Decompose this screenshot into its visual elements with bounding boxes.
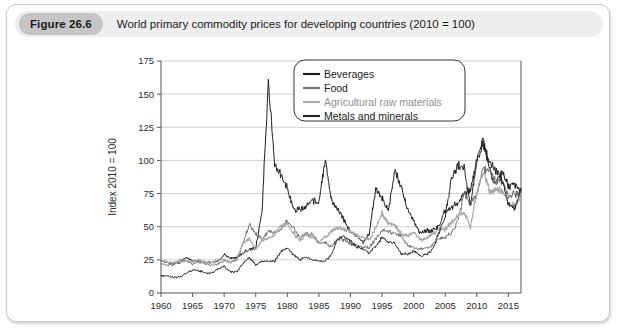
x-tick-label-1985: 1985 — [308, 300, 329, 311]
y-tick-label-50: 50 — [143, 221, 154, 232]
y-tick-label-100: 100 — [138, 155, 154, 166]
x-tick-label-2005: 2005 — [435, 300, 456, 311]
commodity-price-line-chart: 0255075100125150175 19601965197019751980… — [15, 41, 603, 317]
y-tick-label-150: 150 — [138, 89, 154, 100]
legend-label-metals-and-minerals: Metals and minerals — [324, 110, 418, 122]
series-line-metals-and-minerals — [161, 141, 521, 279]
y-axis-ticks-group: 0255075100125150175 — [138, 55, 161, 298]
legend-label-beverages: Beverages — [324, 68, 374, 80]
figure-header: Figure 26.6 World primary commodity pric… — [15, 11, 603, 37]
x-tick-label-1960: 1960 — [150, 300, 171, 311]
x-axis-ticks-group: 1960196519701975198019851990199520002005… — [150, 293, 519, 311]
x-tick-label-1990: 1990 — [340, 300, 361, 311]
y-tick-label-75: 75 — [143, 188, 154, 199]
figure-caption: World primary commodity prices for devel… — [117, 18, 475, 30]
x-tick-label-2010: 2010 — [466, 300, 487, 311]
y-tick-label-175: 175 — [138, 55, 154, 66]
x-tick-label-2000: 2000 — [403, 300, 424, 311]
chart-plot-area: 0255075100125150175 19601965197019751980… — [15, 41, 603, 317]
y-tick-label-0: 0 — [149, 287, 154, 298]
legend-label-food: Food — [324, 82, 348, 94]
y-tick-label-125: 125 — [138, 122, 154, 133]
x-tick-label-1995: 1995 — [371, 300, 392, 311]
x-tick-label-1970: 1970 — [214, 300, 235, 311]
x-tick-label-2015: 2015 — [498, 300, 519, 311]
y-tick-label-25: 25 — [143, 254, 154, 265]
figure-frame: Figure 26.6 World primary commodity pric… — [6, 4, 610, 322]
figure-number-badge: Figure 26.6 — [19, 13, 103, 35]
y-axis-title: Index 2010 = 100 — [107, 138, 118, 216]
x-tick-label-1980: 1980 — [277, 300, 298, 311]
legend-label-agricultural-raw-materials: Agricultural raw materials — [324, 96, 442, 108]
x-tick-label-1975: 1975 — [245, 300, 266, 311]
chart-legend: BeveragesFoodAgricultural raw materialsM… — [294, 60, 465, 122]
x-tick-label-1965: 1965 — [182, 300, 203, 311]
